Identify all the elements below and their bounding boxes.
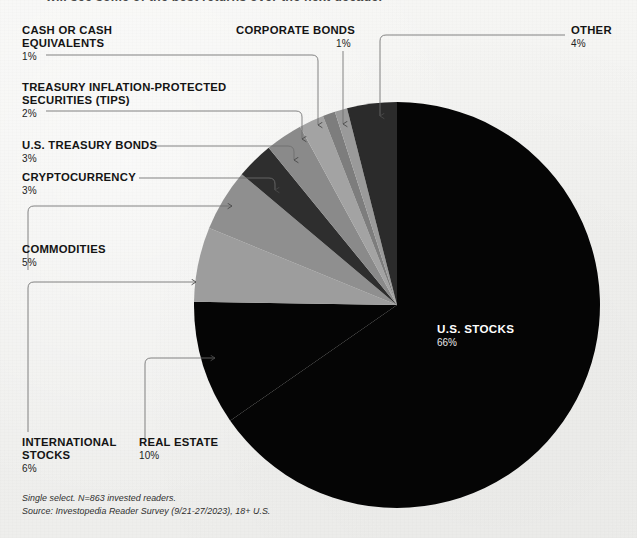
callout-other[interactable]: OTHER 4% (571, 24, 612, 49)
callout-corporate-bonds-label: CORPORATE BONDS (236, 24, 355, 37)
callout-us-stocks-label: U.S. STOCKS (437, 322, 514, 335)
callout-tips-label: TREASURY INFLATION-PROTECTED SECURITIES … (22, 81, 227, 107)
leader-international-stocks (28, 282, 196, 432)
leader-cryptocurrency (139, 178, 275, 190)
callout-international-stocks[interactable]: INTERNATIONAL STOCKS 6% (22, 436, 117, 474)
callout-commodities[interactable]: COMMODITIES 5% (22, 243, 106, 268)
callout-cash-pct: 1% (22, 51, 112, 62)
callout-tips[interactable]: TREASURY INFLATION-PROTECTED SECURITIES … (22, 81, 227, 119)
callout-us-stocks-pct: 66% (437, 337, 514, 348)
leader-treasury-bonds (152, 146, 294, 160)
callout-cryptocurrency-pct: 3% (22, 185, 136, 196)
callout-real-estate-pct: 10% (139, 450, 218, 461)
callout-commodities-label: COMMODITIES (22, 243, 106, 256)
callout-commodities-pct: 5% (22, 257, 106, 268)
callout-real-estate[interactable]: REAL ESTATE 10% (139, 436, 218, 461)
footnote: Single select. N=863 invested readers. S… (22, 492, 270, 517)
callout-real-estate-label: REAL ESTATE (139, 436, 218, 449)
callout-other-pct: 4% (571, 38, 612, 49)
callout-corporate-bonds[interactable]: CORPORATE BONDS 1% (236, 24, 355, 49)
callout-treasury-bonds-pct: 3% (22, 153, 157, 164)
callout-treasury-bonds-label: U.S. TREASURY BONDS (22, 139, 157, 152)
footnote-line-2: Source: Investopedia Reader Survey (9/21… (22, 505, 270, 518)
footnote-line-1: Single select. N=863 invested readers. (22, 492, 270, 505)
callout-corporate-bonds-pct: 1% (336, 38, 355, 49)
callout-international-stocks-label: INTERNATIONAL STOCKS (22, 436, 117, 462)
callout-tips-pct: 2% (22, 108, 227, 119)
callout-treasury-bonds[interactable]: U.S. TREASURY BONDS 3% (22, 139, 157, 164)
leader-other (380, 35, 565, 116)
callout-international-stocks-pct: 6% (22, 463, 117, 474)
callout-cash[interactable]: CASH OR CASH EQUIVALENTS 1% (22, 24, 112, 62)
callout-cash-label: CASH OR CASH EQUIVALENTS (22, 24, 112, 50)
callout-cryptocurrency[interactable]: CRYPTOCURRENCY 3% (22, 171, 136, 196)
callout-cryptocurrency-label: CRYPTOCURRENCY (22, 171, 136, 184)
chart-page: will see some of the best returns over t… (0, 0, 637, 538)
callout-us-stocks[interactable]: U.S. STOCKS 66% (437, 322, 514, 348)
leader-real-estate (145, 358, 215, 440)
callout-other-label: OTHER (571, 24, 612, 37)
